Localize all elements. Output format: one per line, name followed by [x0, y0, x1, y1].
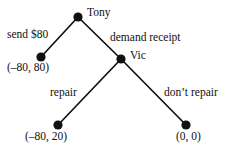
game-tree-figure: Tony Vic send $80 demand receipt repair … [0, 0, 231, 156]
node-label-tony: Tony [87, 7, 110, 19]
payoff-label-repair: (–80, 20) [25, 131, 67, 143]
payoff-label-send-80: (–80, 80) [7, 62, 49, 74]
node-repair-terminal [53, 120, 62, 129]
node-vic [116, 54, 125, 63]
action-label-dont-repair: don’t repair [164, 87, 218, 99]
action-label-send-80: send $80 [7, 29, 48, 41]
action-label-demand-receipt: demand receipt [110, 32, 181, 44]
node-tony [73, 12, 82, 21]
payoff-label-dont-repair: (0, 0) [176, 131, 201, 143]
node-dont-repair-terminal [181, 120, 190, 129]
tree-nodes [36, 12, 190, 129]
action-label-repair: repair [50, 87, 77, 99]
node-label-vic: Vic [130, 50, 146, 62]
